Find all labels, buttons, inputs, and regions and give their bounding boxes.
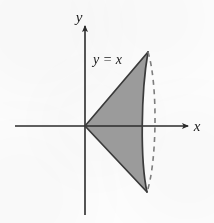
cone-figure: y x y = x (0, 0, 214, 223)
shaded-cone-region (85, 52, 148, 192)
curve-equation-label: y = x (91, 52, 123, 67)
y-axis-label: y (74, 9, 83, 25)
base-circle-back-arc (147, 52, 155, 192)
x-axis-label: x (193, 118, 201, 134)
